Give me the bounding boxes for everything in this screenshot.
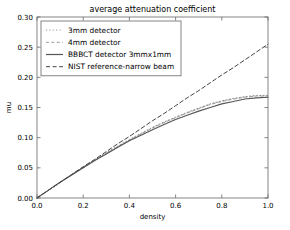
legend-label-3: NIST reference-narrow beam [68,62,174,71]
x-tick-label: 0.2 [78,202,89,210]
x-tick-label: 0.0 [31,202,42,210]
y-tick-label: 0.15 [17,104,33,112]
x-tick-label: 0.4 [124,202,136,210]
chart-title: average attenuation coefficient [90,5,216,14]
legend-label-2: BBBCT detector 3mmx1mm [68,50,171,59]
x-tick-label: 1.0 [262,202,273,210]
x-tick-label: 0.6 [170,202,182,210]
legend-label-0: 3mm detector [68,26,122,35]
series-line-0 [37,95,268,198]
series-line-2 [37,97,268,198]
y-tick-label: 0.20 [17,74,33,82]
x-axis-label: density [140,213,166,221]
y-tick-label: 0.30 [17,14,33,22]
y-tick-label: 0.00 [17,195,33,203]
series-line-1 [37,96,268,198]
y-tick-label: 0.10 [17,134,33,142]
attenuation-coefficient-plot: average attenuation coefficient0.00.20.4… [0,0,290,230]
y-axis-label: mu [5,102,13,113]
chart-figure: average attenuation coefficient0.00.20.4… [0,0,290,230]
legend-label-1: 4mm detector [68,38,122,47]
y-tick-label: 0.25 [17,44,33,52]
y-tick-label: 0.05 [17,164,33,172]
x-tick-label: 0.8 [216,202,227,210]
